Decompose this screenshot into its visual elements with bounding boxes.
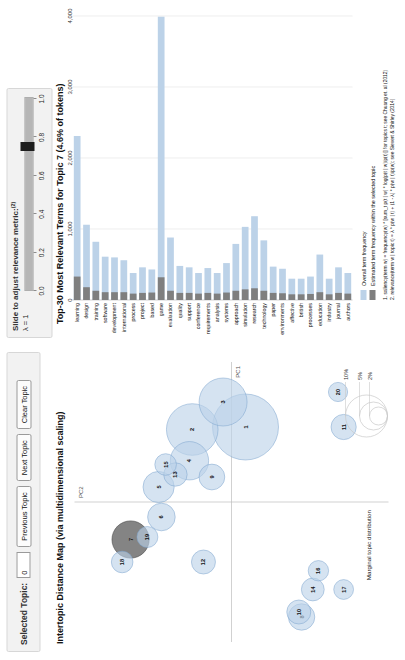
bar-topic-frequency[interactable] <box>157 277 164 300</box>
slider-handle[interactable] <box>20 142 34 151</box>
legend-label-estimated: Estimated term frequency within the sele… <box>369 166 375 286</box>
bar-term-label[interactable]: software <box>101 303 107 323</box>
bar-term-label[interactable]: british <box>297 303 303 317</box>
legend-size-circle <box>369 407 387 425</box>
bar-topic-frequency[interactable] <box>269 293 276 300</box>
slider-tick-group: 0.00.20.40.60.81.0 <box>33 99 47 291</box>
bar-term-label[interactable]: evaluation <box>167 303 173 327</box>
bar-topic-frequency[interactable] <box>92 291 99 300</box>
legend-size-label: 10% <box>342 369 348 380</box>
bar-topic-frequency[interactable] <box>260 291 267 300</box>
bar-term-label[interactable]: analysis <box>213 303 219 322</box>
slider-tick-label: 0.8 <box>37 133 44 142</box>
topic-bubble[interactable]: 14 <box>301 578 324 601</box>
bar-term-label[interactable]: environments <box>279 303 285 335</box>
topic-bubble[interactable]: 10 <box>286 600 310 624</box>
slider-track[interactable] <box>24 97 33 291</box>
selected-topic-input[interactable] <box>16 552 30 578</box>
bar-overall-frequency[interactable] <box>251 216 258 300</box>
bar-topic-frequency[interactable] <box>101 292 108 300</box>
bar-term-label[interactable]: simulation <box>241 303 247 327</box>
bar-term-label[interactable]: journal <box>335 303 341 320</box>
bar-topic-frequency[interactable] <box>288 294 295 300</box>
topic-bubble-label: 1 <box>242 425 248 428</box>
bar-topic-frequency[interactable] <box>129 294 136 300</box>
bar-overall-frequency[interactable] <box>73 136 80 300</box>
bar-term-label[interactable]: project <box>139 302 145 318</box>
topic-bubble[interactable]: 9 <box>198 464 224 490</box>
bar-term-label[interactable]: international <box>120 303 126 332</box>
bar-panel-title: Top-30 Most Relevant Terms for Topic 7 (… <box>54 83 64 324</box>
bar-term-label[interactable]: training <box>92 303 98 320</box>
bar-term-label[interactable]: game <box>157 303 163 316</box>
bar-topic-frequency[interactable] <box>241 289 248 300</box>
bar-topic-frequency[interactable] <box>335 293 342 300</box>
bar-overall-frequency[interactable] <box>241 227 248 300</box>
topic-bubble[interactable]: 3 <box>199 378 247 426</box>
bar-topic-frequency[interactable] <box>279 293 286 300</box>
bar-term-label[interactable]: quality <box>176 303 182 319</box>
bar-topic-frequency[interactable] <box>316 292 323 300</box>
bar-topic-frequency[interactable] <box>297 294 304 300</box>
bar-topic-frequency[interactable] <box>120 292 127 300</box>
bar-term-label[interactable]: affective <box>288 303 294 323</box>
bar-term-label[interactable]: requirements <box>204 303 210 334</box>
bar-topic-frequency[interactable] <box>83 287 90 300</box>
map-svg[interactable]: PC1PC21234756891110121314151819161720Mar… <box>66 352 398 652</box>
bar-term-label[interactable]: based <box>148 303 154 317</box>
bar-topic-frequency[interactable] <box>223 293 230 300</box>
bar-topic-frequency[interactable] <box>325 294 332 300</box>
bar-term-label[interactable]: development <box>111 302 117 333</box>
bar-topic-frequency[interactable] <box>139 293 146 300</box>
bar-topic-frequency[interactable] <box>111 292 118 300</box>
bar-term-label[interactable]: authors <box>344 303 350 321</box>
bar-term-label[interactable]: learning <box>73 303 79 322</box>
topic-bubble[interactable]: 11 <box>331 414 356 439</box>
bar-term-label[interactable]: support <box>185 302 191 320</box>
bar-topic-frequency[interactable] <box>344 294 351 300</box>
bar-term-label[interactable]: systems <box>223 303 229 323</box>
bar-topic-frequency[interactable] <box>73 277 80 300</box>
bar-term-label[interactable]: paper <box>269 303 275 317</box>
next-topic-button[interactable]: Next Topic <box>16 434 31 481</box>
bar-term-label[interactable]: technology <box>260 303 266 329</box>
bar-x-tick-label: 2,000 <box>66 150 72 166</box>
topic-bubble[interactable]: 16 <box>308 561 328 581</box>
clear-topic-button[interactable]: Clear Topic <box>16 380 31 429</box>
bar-svg[interactable]: 01,0002,0003,0004,000learningdesigntrain… <box>66 8 398 344</box>
bar-overall-frequency[interactable] <box>167 238 174 300</box>
bar-term-label[interactable]: industry <box>325 303 331 322</box>
bar-topic-frequency[interactable] <box>148 293 155 300</box>
topic-bubble[interactable]: 20 <box>328 382 347 401</box>
topic-bubble[interactable]: 17 <box>333 580 353 600</box>
bar-topic-frequency[interactable] <box>167 291 174 300</box>
previous-topic-button[interactable]: Previous Topic <box>16 486 31 547</box>
bar-term-label[interactable]: processes <box>307 303 313 327</box>
bar-topic-frequency[interactable] <box>307 294 314 300</box>
bar-topic-frequency[interactable] <box>251 288 258 300</box>
bar-topic-frequency[interactable] <box>204 293 211 300</box>
bar-term-label[interactable]: process <box>129 303 135 322</box>
bar-topic-frequency[interactable] <box>232 291 239 300</box>
bar-topic-frequency[interactable] <box>185 293 192 300</box>
bar-term-label[interactable]: conference <box>195 303 201 329</box>
bar-topic-frequency[interactable] <box>176 293 183 300</box>
bar-term-label[interactable]: education <box>316 303 322 326</box>
slider-title-superscript: (2) <box>9 202 15 209</box>
bar-term-label[interactable]: research <box>251 303 257 324</box>
intertopic-distance-map: PC1PC21234756891110121314151819161720Mar… <box>66 352 398 652</box>
bar-overall-frequency[interactable] <box>157 17 164 300</box>
slider-title: Slide to adjust relevance metric:(2) <box>9 202 20 331</box>
bar-term-label[interactable]: approach <box>232 303 238 325</box>
topic-bubble-label: 7 <box>127 538 133 541</box>
topic-bubble-label: 14 <box>309 586 315 593</box>
topic-bubble-label: 11 <box>340 424 346 430</box>
bar-term-label[interactable]: design <box>83 303 89 319</box>
bar-topic-frequency[interactable] <box>195 294 202 300</box>
topic-bubble[interactable]: 18 <box>111 551 133 573</box>
legend-size-label: 5% <box>356 372 362 380</box>
bar-topic-frequency[interactable] <box>213 294 220 300</box>
topic-bubble[interactable]: 12 <box>191 550 215 574</box>
topic-bubble-label: 18 <box>119 559 125 565</box>
topic-bubble[interactable]: 6 <box>147 503 175 531</box>
